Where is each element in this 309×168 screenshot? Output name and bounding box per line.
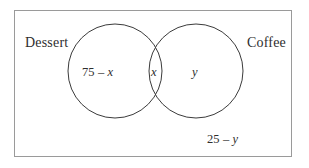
region-intersection-variable: x	[151, 65, 157, 79]
set-label-dessert: Dessert	[25, 36, 68, 50]
region-value-neither: 25 – y	[207, 133, 238, 146]
set-label-coffee: Coffee	[247, 36, 286, 50]
venn-circles	[0, 0, 309, 168]
region-left-only-number: 75 –	[82, 65, 108, 79]
region-outside-variable: y	[233, 132, 239, 146]
region-value-dessert-only: 75 – x	[82, 66, 113, 79]
venn-diagram-figure: Dessert Coffee 75 – x x y 25 – y	[0, 0, 309, 168]
region-value-intersection: x	[151, 66, 157, 79]
region-value-coffee-only: y	[192, 66, 198, 79]
region-outside-number: 25 –	[207, 132, 233, 146]
region-left-only-variable: x	[108, 65, 114, 79]
region-right-only-variable: y	[192, 65, 198, 79]
